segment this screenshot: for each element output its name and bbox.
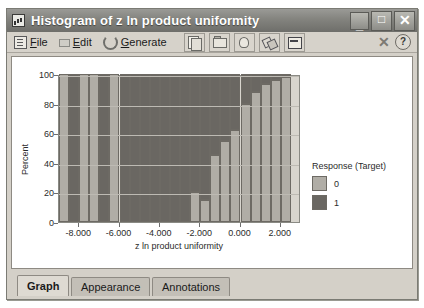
x-tick-label: -8.000: [65, 228, 91, 238]
bar-segment[interactable]: [210, 74, 220, 155]
histogram-bar[interactable]: [140, 74, 150, 222]
bar-segment[interactable]: [241, 104, 251, 222]
histogram-bar[interactable]: [109, 74, 119, 222]
histogram-bar[interactable]: [281, 74, 291, 222]
title-bar: Histogram of z ln product uniformity _ □…: [7, 9, 417, 32]
bar-segment[interactable]: [180, 74, 190, 222]
minimize-button[interactable]: _: [350, 12, 369, 30]
grid-line: [59, 76, 299, 77]
menu-item-generate[interactable]: Generate: [100, 34, 173, 51]
bar-segment[interactable]: [59, 74, 69, 222]
bar-segment[interactable]: [241, 74, 251, 104]
maximize-icon: □: [372, 13, 391, 25]
histogram-bar[interactable]: [200, 74, 210, 222]
menu-item-edit[interactable]: Edit: [56, 35, 98, 49]
menu-item-file[interactable]: File: [11, 35, 54, 50]
histogram-bar[interactable]: [69, 74, 79, 222]
menu-item-generate-label: Generate: [121, 36, 167, 48]
x-tick-label: -2.000: [186, 228, 212, 238]
histogram-bar[interactable]: [59, 74, 69, 222]
bar-segment[interactable]: [230, 130, 240, 222]
file-icon: [14, 36, 27, 49]
help-icon[interactable]: ?: [395, 34, 411, 50]
tab-appearance[interactable]: Appearance: [71, 277, 150, 296]
histogram-bar[interactable]: [220, 74, 230, 222]
generate-icon: [103, 35, 118, 50]
histogram-bar[interactable]: [130, 74, 140, 222]
grid-line: [59, 135, 299, 136]
bar-segment[interactable]: [89, 74, 99, 222]
y-tick-label: 60: [44, 129, 54, 139]
bar-segment[interactable]: [190, 192, 200, 222]
legend-label: 1: [334, 198, 339, 208]
bar-segment[interactable]: [170, 74, 180, 222]
grid-line: [59, 106, 299, 107]
histogram-bar[interactable]: [230, 74, 240, 222]
histogram-icon: [12, 14, 25, 27]
histogram-bar[interactable]: [210, 74, 220, 222]
bar-segment[interactable]: [120, 74, 130, 222]
grid-line: [59, 165, 299, 166]
x-axis-ticks: -8.000-6.000-4.000-2.0000.0002.000: [58, 223, 300, 243]
histogram-bar[interactable]: [241, 74, 251, 222]
toolbar-right-group: ✕ ?: [377, 34, 413, 50]
copy-icon[interactable]: [184, 33, 205, 52]
histogram-bar[interactable]: [120, 74, 130, 222]
legend-entries: 01: [312, 176, 412, 210]
legend: Response (Target) 01: [312, 161, 412, 214]
histogram-bar[interactable]: [251, 74, 261, 222]
bar-segment[interactable]: [99, 74, 109, 222]
bar-segment[interactable]: [140, 74, 150, 222]
print-preview-icon[interactable]: [234, 33, 255, 52]
legend-label: 0: [334, 179, 339, 189]
window-title: Histogram of z ln product uniformity: [31, 13, 350, 28]
x-tick-label: -4.000: [146, 228, 172, 238]
histogram-window: Histogram of z ln product uniformity _ □…: [6, 8, 418, 300]
bar-segment[interactable]: [200, 200, 210, 222]
bar-segment[interactable]: [130, 74, 140, 222]
bar-series: [59, 76, 299, 222]
plot-wrapper: Percent 020406080100 -8.000-6.000-4.000-…: [12, 57, 412, 268]
bar-segment[interactable]: [150, 74, 160, 222]
bar-segment[interactable]: [271, 80, 281, 222]
bar-segment[interactable]: [190, 74, 200, 192]
plot-area: [58, 75, 300, 223]
x-tick-mark: [199, 223, 200, 227]
bar-segment[interactable]: [220, 74, 230, 141]
close-small-icon[interactable]: ✕: [377, 36, 390, 49]
menu-item-edit-label: Edit: [73, 36, 92, 48]
y-axis-ticks: 020406080100: [12, 57, 54, 268]
export-image-icon[interactable]: [209, 33, 230, 52]
maximize-button[interactable]: □: [371, 11, 392, 31]
histogram-bar[interactable]: [99, 74, 109, 222]
bar-segment[interactable]: [69, 74, 79, 222]
bar-segment[interactable]: [230, 74, 240, 130]
bar-segment[interactable]: [220, 141, 230, 222]
histogram-bar[interactable]: [261, 74, 271, 222]
close-button[interactable]: ✕: [394, 11, 415, 31]
tab-graph[interactable]: Graph: [17, 275, 69, 296]
histogram-bar[interactable]: [180, 74, 190, 222]
tab-annotations[interactable]: Annotations: [152, 277, 230, 296]
x-tick-mark: [119, 223, 120, 227]
bar-segment[interactable]: [281, 77, 291, 222]
minimize-icon: _: [351, 18, 368, 31]
bar-segment[interactable]: [251, 92, 261, 222]
histogram-bar[interactable]: [170, 74, 180, 222]
close-icon: ✕: [395, 13, 414, 27]
bar-segment[interactable]: [200, 74, 210, 200]
bar-segment[interactable]: [160, 74, 170, 222]
insert-chart-icon[interactable]: [284, 33, 305, 52]
x-tick-label: -6.000: [106, 228, 132, 238]
legend-swatch: [312, 176, 327, 191]
histogram-bar[interactable]: [150, 74, 160, 222]
x-tick-label: 2.000: [269, 228, 292, 238]
histogram-bar[interactable]: [190, 74, 200, 222]
link-icon[interactable]: [259, 33, 280, 52]
bar-segment[interactable]: [109, 74, 119, 222]
histogram-bar[interactable]: [89, 74, 99, 222]
histogram-bar[interactable]: [79, 74, 89, 222]
histogram-bar[interactable]: [271, 74, 281, 222]
bar-segment[interactable]: [79, 74, 89, 222]
histogram-bar[interactable]: [160, 74, 170, 222]
